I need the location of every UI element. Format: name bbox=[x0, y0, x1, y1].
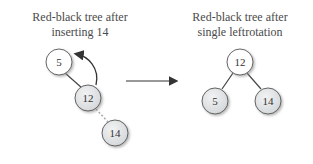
node-label: 12 bbox=[235, 56, 246, 68]
node-label: 5 bbox=[212, 95, 218, 107]
node-label: 12 bbox=[83, 92, 94, 104]
left-node-5: 5 bbox=[46, 49, 72, 75]
left-node-12: 12 bbox=[75, 85, 101, 111]
node-label: 14 bbox=[263, 95, 275, 107]
edge-12-14-dotted bbox=[96, 109, 108, 122]
left-node-14: 14 bbox=[102, 120, 128, 146]
tree-diagram: 5 12 14 12 5 14 bbox=[0, 0, 313, 164]
rotation-arrow-icon bbox=[76, 54, 97, 85]
edge-12-5 bbox=[222, 73, 233, 89]
right-node-14: 14 bbox=[255, 88, 281, 114]
edge-12-14 bbox=[247, 73, 261, 89]
right-node-5: 5 bbox=[202, 88, 228, 114]
right-node-12: 12 bbox=[227, 49, 253, 75]
node-label: 14 bbox=[110, 127, 122, 139]
edge-5-12 bbox=[65, 73, 82, 88]
node-label: 5 bbox=[56, 56, 62, 68]
